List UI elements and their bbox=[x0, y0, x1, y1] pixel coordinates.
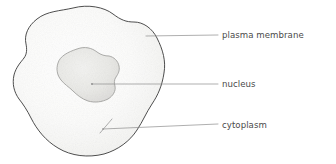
anchor-dot-cytoplasm bbox=[102, 128, 104, 130]
cell-diagram: plasma membrane nucleus cytoplasm bbox=[0, 0, 336, 164]
label-plasma-membrane: plasma membrane bbox=[222, 30, 304, 40]
leader-line-plasma-membrane bbox=[146, 35, 218, 36]
label-nucleus: nucleus bbox=[222, 79, 256, 89]
label-cytoplasm: cytoplasm bbox=[222, 120, 267, 130]
labels: plasma membrane nucleus cytoplasm bbox=[222, 30, 304, 130]
anchor-dot-nucleus bbox=[91, 83, 93, 85]
